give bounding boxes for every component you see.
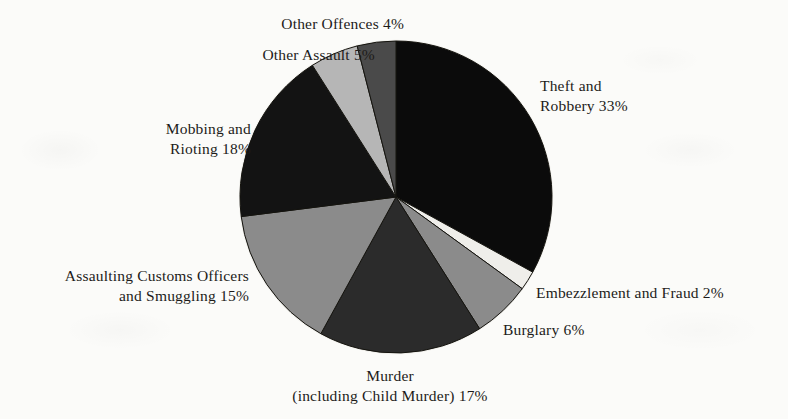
pie-label-line: Murder [0,366,780,386]
pie-label-line: Mobbing and [166,119,251,139]
pie-label: Burglary 6% [503,320,585,340]
pie-label-line: Theft and [540,76,628,96]
pie-label: Embezzlement and Fraud 2% [536,283,724,303]
pie-label-line: Other Offences 4% [281,14,404,34]
pie-label-line: Assaulting Customs Officers [65,266,249,286]
pie-label: Other Assault 5% [262,45,375,65]
pie-label-line: (including Child Murder) 17% [0,386,780,406]
pie-label-line: Burglary 6% [503,320,585,340]
pie-label: Other Offences 4% [281,14,404,34]
pie-label: Theft andRobbery 33% [540,76,628,116]
pie-label-line: Embezzlement and Fraud 2% [536,283,724,303]
pie-label: Murder(including Child Murder) 17% [0,366,780,406]
pie-label-line: Robbery 33% [540,96,628,116]
pie-label-line: and Smuggling 15% [65,286,249,306]
pie-chart [0,0,788,419]
pie-label-line: Rioting 18% [166,139,251,159]
pie-label: Mobbing andRioting 18% [166,119,251,159]
pie-label-line: Other Assault 5% [262,45,375,65]
pie-label: Assaulting Customs Officersand Smuggling… [65,266,249,306]
